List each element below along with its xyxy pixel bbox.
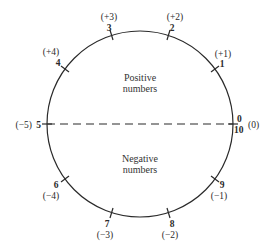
- tick-9-signed: (−1): [211, 191, 227, 202]
- tick-0-signed: (0): [248, 120, 259, 131]
- positive-region-label-line2: numbers: [123, 83, 158, 94]
- tick-4: [61, 66, 69, 72]
- positive-region-label-line1: Positive: [124, 72, 157, 83]
- tick-8-signed: (−2): [162, 230, 178, 241]
- tick-6-digit: 6: [54, 180, 59, 190]
- tick-2-signed: (+2): [167, 12, 183, 23]
- tick-4-signed: (+4): [43, 47, 59, 58]
- tick-9-digit: 9: [220, 180, 225, 190]
- tick-8-digit: 8: [170, 219, 175, 229]
- tick-7-digit: 7: [105, 219, 110, 229]
- tick-1-digit: 1: [220, 59, 225, 69]
- tick-3-digit: 3: [107, 23, 112, 33]
- tick-4-digit: 4: [56, 58, 61, 68]
- tick-5-signed: (−5): [16, 120, 32, 131]
- negative-region-label-line2: numbers: [123, 164, 158, 175]
- tick-1-signed: (+1): [215, 49, 231, 60]
- tick-2-digit: 2: [170, 23, 175, 33]
- tick-0-alt-digit: 10: [234, 125, 244, 135]
- tick-6-signed: (−4): [43, 191, 59, 202]
- tick-7-signed: (−3): [97, 230, 113, 241]
- tick-3-signed: (+3): [101, 12, 117, 23]
- tick-1: [211, 66, 219, 72]
- tick-6: [61, 176, 69, 182]
- tick-9: [211, 176, 219, 182]
- negative-region-label-line1: Negative: [122, 153, 159, 164]
- tick-0-digit: 0: [237, 114, 242, 124]
- tens-complement-circle-diagram: Positive numbers Negative numbers 0 10 (…: [0, 0, 271, 249]
- tick-5-digit: 5: [36, 120, 41, 130]
